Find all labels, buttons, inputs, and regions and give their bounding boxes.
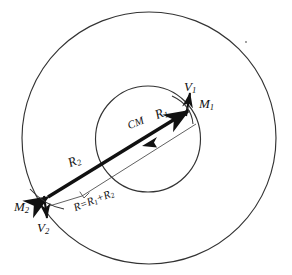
inner-orbit-circle xyxy=(96,86,201,192)
outer-orbit-circle xyxy=(22,12,276,264)
stray-speck xyxy=(245,41,247,43)
label-velocity-two: V2 xyxy=(37,221,49,235)
two-body-orbit-diagram: M1 V1 M2 V2 CM R1 R2 R=R1+R2 xyxy=(0,0,292,275)
label-velocity-one: V1 xyxy=(184,80,196,94)
label-mass-one: M1 xyxy=(199,97,214,111)
velocity-vector-two xyxy=(44,196,47,218)
label-mass-two: M2 xyxy=(14,200,29,214)
